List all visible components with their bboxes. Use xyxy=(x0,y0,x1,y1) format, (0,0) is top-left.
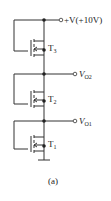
transistor-t1 xyxy=(31,135,44,153)
vo2-label: VO2 xyxy=(79,69,92,80)
t2-gate-wire xyxy=(14,74,28,104)
circuit-diagram: +V(+10V) VO2 VO1 T3 T2 T1 (a) xyxy=(0,0,111,201)
vo1-terminal xyxy=(73,119,77,123)
transistor-t2 xyxy=(31,90,44,108)
supply-label: +V(+10V) xyxy=(64,15,102,25)
junction-dot xyxy=(42,72,46,76)
junction-dot xyxy=(42,99,46,103)
t1-gate-wire xyxy=(14,121,28,149)
vo1-label: VO1 xyxy=(79,116,92,127)
junction-dot xyxy=(42,119,46,123)
t3-label: T3 xyxy=(48,43,57,54)
junction-dot xyxy=(42,18,46,22)
t1-label: T1 xyxy=(48,139,57,150)
junction-dot xyxy=(42,144,46,148)
t3-gate-wire xyxy=(14,20,28,51)
caption: (a) xyxy=(48,176,58,186)
transistor-t3 xyxy=(31,39,44,57)
vo2-terminal xyxy=(73,72,77,76)
t2-label: T2 xyxy=(48,94,57,105)
junction-dot xyxy=(42,48,46,52)
supply-terminal xyxy=(59,18,63,22)
